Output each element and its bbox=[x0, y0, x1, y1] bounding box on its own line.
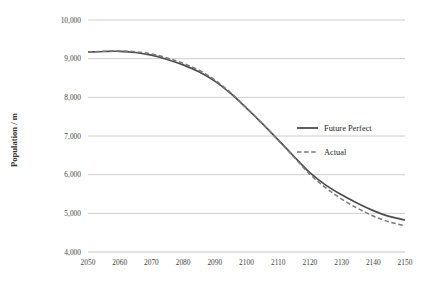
y-axis-tick-label: 8,000 bbox=[64, 93, 81, 102]
population-projection-chart: 10,0009,0008,0007,0006,0005,0004,000 205… bbox=[0, 0, 426, 285]
x-axis-tick-label: 2140 bbox=[366, 258, 381, 267]
y-axis-title: Population / m bbox=[9, 112, 19, 167]
y-axis-tick-label: 10,000 bbox=[61, 16, 82, 25]
x-axis-tick-label: 2070 bbox=[144, 258, 159, 267]
legend-label-1: Future Perfect bbox=[324, 124, 372, 133]
x-axis-tick-label: 2120 bbox=[303, 258, 318, 267]
x-axis-tick-label: 2100 bbox=[239, 258, 254, 267]
y-axis-tick-label: 7,000 bbox=[64, 132, 81, 141]
x-axis-tick-label: 2090 bbox=[207, 258, 222, 267]
x-axis-tick-label: 2130 bbox=[334, 258, 349, 267]
legend-label-2: Actual bbox=[324, 148, 347, 157]
y-axis-tick-label: 9,000 bbox=[64, 54, 81, 63]
x-axis-tick-label: 2110 bbox=[271, 258, 286, 267]
y-axis-tick-label: 6,000 bbox=[64, 170, 81, 179]
x-axis-tick-label: 2080 bbox=[176, 258, 191, 267]
chart-canvas: 10,0009,0008,0007,0006,0005,0004,000 205… bbox=[0, 0, 426, 285]
y-axis-tick-label: 4,000 bbox=[64, 248, 81, 257]
x-axis-tick-label: 2150 bbox=[398, 258, 413, 267]
y-axis-tick-label: 5,000 bbox=[64, 209, 81, 218]
x-axis-tick-label: 2060 bbox=[112, 258, 127, 267]
x-axis-tick-label: 2050 bbox=[81, 258, 96, 267]
chart-background bbox=[0, 0, 426, 285]
